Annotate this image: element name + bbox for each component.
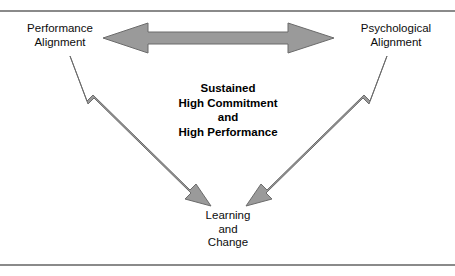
node-label-line: Learning [178,209,278,223]
node-label-line: Psychological [344,22,448,36]
center-text-line: High Performance [138,125,318,140]
center-text-line: and [138,110,318,125]
node-label-line: Performance [12,22,108,36]
arrow-performance-psychological [103,23,334,53]
node-label-psychological-alignment: Psychological Alignment [344,22,448,49]
node-label-line: and [178,223,278,237]
node-label-learning-and-change: Learning and Change [178,209,278,250]
center-text-line: Sustained [138,81,318,96]
node-label-line: Alignment [12,36,108,50]
node-label-line: Change [178,236,278,250]
node-label-performance-alignment: Performance Alignment [12,22,108,49]
figure-root: Performance Alignment Psychological Alig… [0,0,455,276]
center-text-block: Sustained High Commitment and High Perfo… [138,81,318,139]
center-text-line: High Commitment [138,96,318,111]
node-label-line: Alignment [344,36,448,50]
